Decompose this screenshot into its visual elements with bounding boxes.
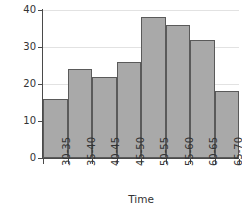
y-tick-label: 0 <box>2 153 36 163</box>
y-tick-label: 30 <box>2 42 36 52</box>
x-tick-label: 55-60 <box>184 120 196 166</box>
x-tick-label: 45-50 <box>135 120 147 166</box>
y-tick-label: 20 <box>2 79 36 89</box>
x-tick-label: 40-45 <box>110 120 122 166</box>
y-tick-label: 40 <box>2 5 36 15</box>
gridline <box>43 10 239 11</box>
histogram-figure: ) Frequency 010203040 30-3535-4040-4545-… <box>0 0 242 211</box>
x-tick-label: 65-70 <box>233 120 242 166</box>
x-tick-label: 60-65 <box>208 120 220 166</box>
y-tick-label: 10 <box>2 116 36 126</box>
x-tick-label: 30-35 <box>61 120 73 166</box>
x-axis-title: Time <box>43 193 239 205</box>
x-tick-mark <box>43 159 44 164</box>
x-tick-label: 50-55 <box>159 120 171 166</box>
x-tick-label: 35-40 <box>86 120 98 166</box>
